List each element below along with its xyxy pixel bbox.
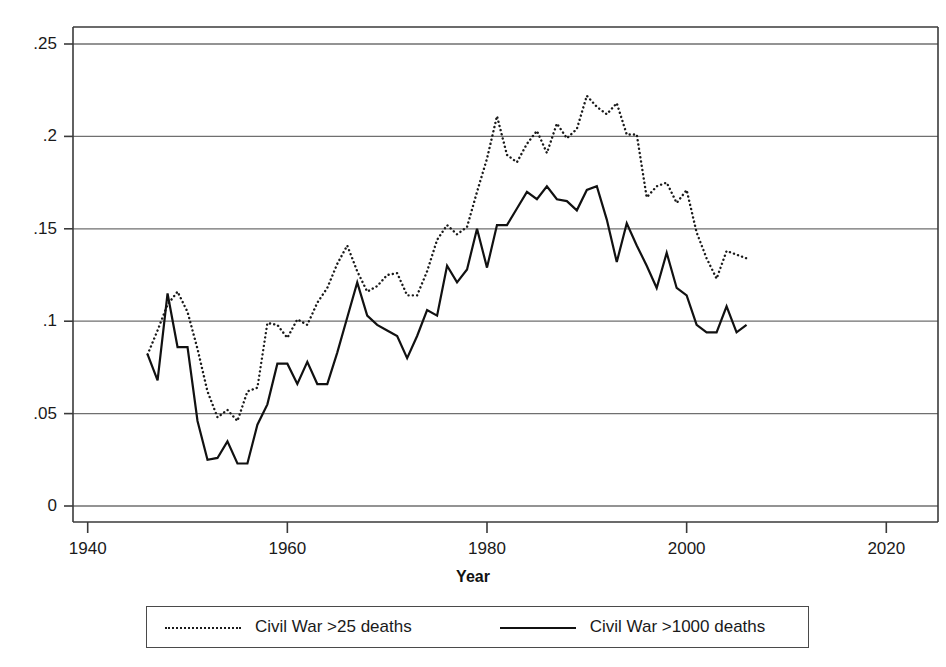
series-line-2 xyxy=(148,186,747,463)
axis-tick-marks xyxy=(64,44,886,533)
x-tick-label: 1960 xyxy=(268,539,306,559)
legend-label-civil-war-25: Civil War >25 deaths xyxy=(255,617,412,637)
chart-plot-svg xyxy=(0,0,946,600)
chart-figure: 0.05.1.15.2.25 19401960198020002020 Year… xyxy=(0,0,946,667)
y-tick-label: .25 xyxy=(0,34,57,54)
y-tick-label: .1 xyxy=(0,311,57,331)
plot-frame xyxy=(73,27,938,522)
legend-entry-civil-war-25: Civil War >25 deaths xyxy=(165,607,412,647)
y-tick-label: .2 xyxy=(0,126,57,146)
legend-label-civil-war-1000: Civil War >1000 deaths xyxy=(590,617,766,637)
chart-legend: Civil War >25 deaths Civil War >1000 dea… xyxy=(146,606,809,648)
dotted-line-key-icon xyxy=(165,620,241,634)
x-tick-label: 2000 xyxy=(668,539,706,559)
x-tick-label: 2020 xyxy=(867,539,905,559)
gridlines xyxy=(73,44,938,506)
y-tick-label: .15 xyxy=(0,219,57,239)
y-tick-label: .05 xyxy=(0,404,57,424)
solid-line-key-icon xyxy=(500,620,576,634)
x-axis-title: Year xyxy=(0,568,946,586)
x-tick-label: 1940 xyxy=(69,539,107,559)
y-tick-label: 0 xyxy=(0,496,57,516)
data-series-layer xyxy=(148,96,747,464)
legend-entry-civil-war-1000: Civil War >1000 deaths xyxy=(500,607,766,647)
series-line-1 xyxy=(148,96,747,421)
x-tick-label: 1980 xyxy=(468,539,506,559)
